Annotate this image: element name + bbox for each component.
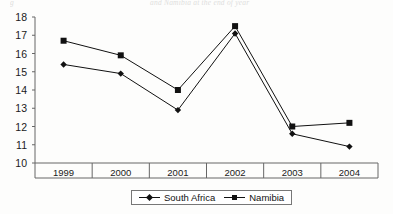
y-axis-tick-label: 15 bbox=[9, 67, 27, 77]
x-axis-tick-label: 2000 bbox=[91, 167, 151, 178]
data-point-square bbox=[61, 38, 67, 44]
data-point-square bbox=[232, 23, 238, 29]
data-point-diamond bbox=[60, 61, 66, 67]
data-point-square bbox=[346, 120, 352, 126]
diamond-marker-icon bbox=[139, 193, 160, 202]
chart-legend: South AfricaNamibia bbox=[131, 190, 292, 205]
y-axis-tick-label: 17 bbox=[9, 30, 27, 40]
legend-label: South Africa bbox=[164, 193, 215, 203]
y-axis-tick-label: 16 bbox=[9, 49, 27, 59]
data-point-square bbox=[175, 87, 181, 93]
series-line-south-africa bbox=[64, 33, 350, 146]
line-chart: 1011121314151617181999200020012002200320… bbox=[0, 0, 393, 214]
x-axis-tick-label: 2001 bbox=[148, 167, 208, 178]
legend-label: Namibia bbox=[249, 193, 284, 203]
legend-item[interactable]: South Africa bbox=[139, 193, 215, 203]
data-point-square bbox=[118, 52, 124, 58]
x-axis-tick-label: 2002 bbox=[205, 167, 265, 178]
square-marker-icon bbox=[224, 193, 245, 202]
y-axis-tick-label: 18 bbox=[9, 12, 27, 22]
data-point-square bbox=[289, 124, 295, 130]
chart-canvas bbox=[0, 0, 393, 214]
series-line-namibia bbox=[64, 26, 350, 126]
y-axis-tick-label: 11 bbox=[9, 140, 27, 150]
y-axis-tick-label: 12 bbox=[9, 122, 27, 132]
data-point-diamond bbox=[289, 131, 295, 137]
legend-item[interactable]: Namibia bbox=[224, 193, 284, 203]
data-point-diamond bbox=[118, 70, 124, 76]
y-axis-tick-label: 14 bbox=[9, 85, 27, 95]
x-axis-tick-label: 2003 bbox=[262, 167, 322, 178]
x-axis-tick-label: 2004 bbox=[319, 167, 379, 178]
x-axis-tick-label: 1999 bbox=[34, 167, 94, 178]
y-axis-tick-label: 10 bbox=[9, 158, 27, 168]
data-point-diamond bbox=[346, 143, 352, 149]
y-axis-tick-label: 13 bbox=[9, 103, 27, 113]
